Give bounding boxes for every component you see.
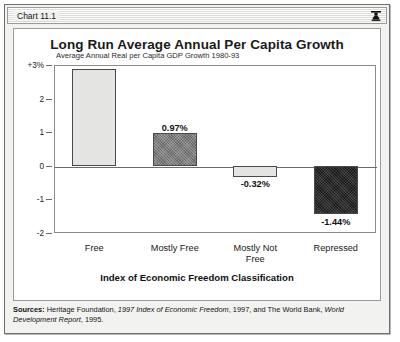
pin-icon[interactable] (369, 9, 382, 22)
x-label-line: Mostly Free (135, 243, 216, 254)
sources-label: Sources: (13, 305, 45, 314)
y-tick-label: -2 (37, 229, 44, 238)
x-axis-title: Index of Economic Freedom Classification (14, 272, 380, 283)
x-label-repressed: Repressed (296, 243, 377, 254)
y-tick-mark (46, 166, 52, 167)
y-tick-mark (46, 199, 52, 200)
y-tick-label: -1 (37, 195, 44, 204)
sources-title-2b: Development Report (13, 315, 81, 324)
y-tick-mark (46, 233, 52, 234)
bar-value-label: -1.44% (321, 217, 350, 227)
bar-value-label: -0.32% (241, 179, 270, 189)
y-tick-label: 2 (39, 94, 44, 103)
sources-text-a: Heritage Foundation, (45, 305, 118, 314)
bar-mostly-free[interactable] (153, 133, 197, 166)
window-title: Chart 11.1 (14, 11, 59, 21)
y-axis: +3% 2 1 0 -1 -2 (24, 65, 52, 233)
y-tick-mark (46, 99, 52, 100)
y-tick-label: +3% (27, 61, 44, 70)
plot-area: Average Annual Real per Capita GDP Growt… (54, 51, 376, 241)
bar-slot-mostly-free: 0.97% (135, 65, 216, 233)
bar-series: 2.88% 0.97% -0.32% -1.44% (54, 65, 376, 233)
titlebar-stripes (8, 8, 386, 23)
chart-card: Long Run Average Annual Per Capita Growt… (13, 28, 381, 301)
x-label-mostly-not-free: Mostly Not Free (215, 243, 296, 264)
bar-mostly-not-free[interactable] (233, 166, 277, 177)
bar-value-label: 0.97% (162, 123, 188, 133)
sources-title-1: 1997 Index of Economic Freedom (118, 305, 229, 314)
bar-free[interactable] (72, 69, 116, 166)
y-tick-mark (46, 65, 52, 66)
x-label-free: Free (54, 243, 135, 254)
sources-text-c: , 1995. (81, 315, 104, 324)
chart-window: Chart 11.1 Long Run Average Annual Per C… (4, 4, 390, 334)
x-label-mostly-free: Mostly Free (135, 243, 216, 254)
plot-subtitle: Average Annual Real per Capita GDP Growt… (56, 51, 239, 60)
x-axis-labels: Free Mostly Free Mostly Not Free Repress… (54, 243, 376, 271)
x-label-line: Free (54, 243, 135, 254)
x-label-line: Free (215, 254, 296, 265)
bar-slot-free: 2.88% (54, 65, 135, 233)
sources-text-b: , 1997, and The World Bank, (229, 305, 325, 314)
bar-slot-repressed: -1.44% (296, 65, 377, 233)
sources-title-2a: World (325, 305, 344, 314)
window-titlebar: Chart 11.1 (7, 7, 387, 24)
y-tick-mark (46, 132, 52, 133)
bar-repressed[interactable] (314, 166, 358, 214)
y-tick-label: 1 (39, 128, 44, 137)
page-title: Long Run Average Annual Per Capita Growt… (14, 37, 380, 52)
bar-slot-mostly-not-free: -0.32% (215, 65, 296, 233)
y-tick-label: 0 (39, 161, 44, 170)
sources-note: Sources: Heritage Foundation, 1997 Index… (13, 305, 381, 324)
x-label-line: Repressed (296, 243, 377, 254)
x-label-line: Mostly Not (215, 243, 296, 254)
